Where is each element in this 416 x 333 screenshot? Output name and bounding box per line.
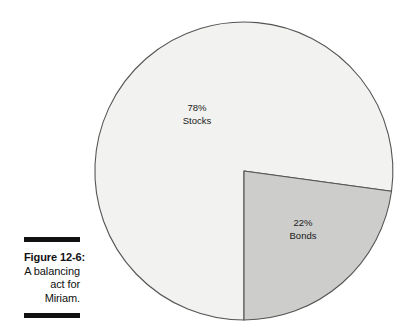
pie-label-bonds-percent: 22% xyxy=(273,217,333,230)
figure-caption-line-1: A balancing xyxy=(24,265,80,279)
pie-slice-bonds[interactable] xyxy=(244,171,392,320)
figure-caption-line-3: Miriam. xyxy=(24,292,80,306)
pie-label-stocks-name: Stocks xyxy=(167,115,227,128)
pie-label-stocks: 78% Stocks xyxy=(167,102,227,127)
figure-caption-line-2: act for xyxy=(24,278,80,292)
figure-caption-block: Figure 12-6: A balancing act for Miriam. xyxy=(24,237,80,318)
pie-label-bonds: 22% Bonds xyxy=(273,217,333,242)
pie-label-stocks-percent: 78% xyxy=(167,102,227,115)
figure-caption-text: Figure 12-6: A balancing act for Miriam. xyxy=(24,251,80,305)
pie-label-bonds-name: Bonds xyxy=(273,230,333,243)
figure-caption-label: Figure 12-6: xyxy=(24,251,80,265)
caption-rule-bottom xyxy=(24,313,80,318)
caption-rule-top xyxy=(24,237,80,242)
